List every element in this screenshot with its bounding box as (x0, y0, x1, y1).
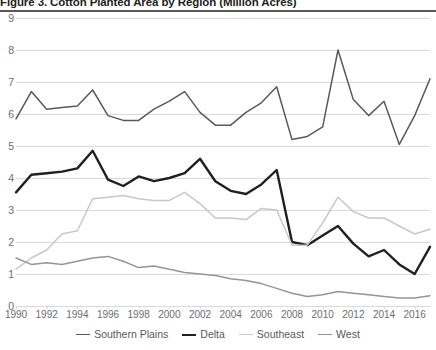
x-axis-tick-label: 1998 (128, 309, 150, 321)
series-line-west (16, 256, 430, 298)
plot-area (16, 18, 430, 306)
legend-item-delta[interactable]: Delta (182, 329, 225, 340)
series-line-southern-plains (16, 50, 430, 144)
y-axis-tick-label: 3 (8, 205, 14, 215)
y-axis-tick-label: 5 (8, 141, 14, 151)
series-line-delta (16, 151, 430, 274)
legend-label: Southern Plains (94, 329, 168, 340)
chart-legend: Southern PlainsDeltaSoutheastWest (0, 329, 436, 340)
legend-label: West (336, 329, 360, 340)
legend-swatch-icon (182, 334, 196, 336)
x-axis-tick-label: 2010 (312, 309, 334, 321)
x-axis-tick-label: 1992 (36, 309, 58, 321)
y-axis-tick-label: 6 (8, 109, 14, 119)
x-axis-labels: 1990199219941996199820002002200420062008… (0, 309, 436, 325)
legend-swatch-icon (239, 334, 253, 335)
legend-item-west[interactable]: West (318, 329, 360, 340)
x-axis-tick-label: 2012 (342, 309, 364, 321)
y-axis-tick-label: 7 (8, 77, 14, 87)
legend-label: Southeast (257, 329, 304, 340)
y-axis-tick-label: 8 (8, 45, 14, 55)
series-lines (16, 18, 430, 306)
legend-swatch-icon (318, 334, 332, 335)
x-axis-tick-label: 1994 (66, 309, 88, 321)
legend-item-southeast[interactable]: Southeast (239, 329, 304, 340)
x-axis-tick-label: 2004 (220, 309, 242, 321)
title-divider (0, 10, 436, 12)
figure-title: Figure 3. Cotton Planted Area by Region … (0, 0, 436, 8)
x-axis-tick-label: 2016 (404, 309, 426, 321)
figure-container: Figure 3. Cotton Planted Area by Region … (0, 0, 436, 350)
x-axis-tick-label: 2014 (373, 309, 395, 321)
legend-swatch-icon (76, 334, 90, 335)
x-axis-tick-label: 2002 (189, 309, 211, 321)
y-axis-tick-label: 9 (8, 13, 14, 23)
legend-label: Delta (200, 329, 225, 340)
series-line-southeast (16, 192, 430, 269)
y-axis-tick-label: 1 (8, 269, 14, 279)
x-axis-tick-label: 1996 (97, 309, 119, 321)
x-axis-tick-label: 1990 (5, 309, 27, 321)
x-axis-tick-label: 2000 (158, 309, 180, 321)
y-axis-tick-label: 2 (8, 237, 14, 247)
y-axis-labels: 0123456789 (0, 18, 14, 306)
x-axis-tick-label: 2008 (281, 309, 303, 321)
x-axis-tick-label: 2006 (250, 309, 272, 321)
legend-item-southern-plains[interactable]: Southern Plains (76, 329, 168, 340)
y-axis-tick-label: 4 (8, 173, 14, 183)
